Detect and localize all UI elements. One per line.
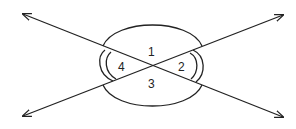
angle-4-arc-inner [106, 52, 116, 79]
angle-label-2: 2 [178, 60, 185, 74]
angle-label-1: 1 [148, 45, 155, 59]
line-ascending [23, 15, 283, 116]
angle-2-arc-inner [190, 53, 197, 79]
angle-1-arc [103, 25, 202, 46]
angle-label-4: 4 [118, 60, 125, 74]
intersecting-lines-diagram: 1 2 3 4 [0, 0, 296, 129]
angle-2-arc-outer [193, 50, 203, 82]
angle-label-3: 3 [148, 77, 155, 91]
